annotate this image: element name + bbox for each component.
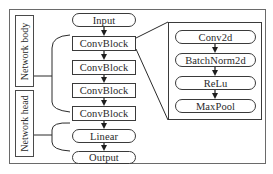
convblock-node-4: ConvBlock — [72, 106, 136, 121]
convblock-node-3-label: ConvBlock — [80, 85, 129, 96]
input-node: Input — [72, 13, 136, 27]
relu-node-label: ReLu — [204, 78, 228, 89]
relu-node: ReLu — [175, 76, 256, 90]
output-node: Output — [72, 151, 136, 164]
output-node-label: Output — [89, 152, 119, 163]
conv2d-node-label: Conv2d — [199, 32, 233, 43]
convblock-node-3: ConvBlock — [72, 83, 136, 98]
batchnorm2d-node: BatchNorm2d — [175, 53, 256, 67]
convblock-node-4-label: ConvBlock — [80, 108, 129, 119]
network-body-label-box: Network body — [15, 15, 34, 87]
conv2d-node: Conv2d — [175, 30, 256, 44]
maxpool-node: MaxPool — [175, 99, 256, 113]
convblock-node-1-label: ConvBlock — [80, 38, 129, 49]
batchnorm2d-node-label: BatchNorm2d — [185, 55, 246, 66]
convblock-node-1: ConvBlock — [72, 36, 136, 51]
convblock-node-2-label: ConvBlock — [80, 62, 129, 73]
network-body-label: Network body — [19, 22, 30, 80]
network-head-label: Network head — [19, 95, 30, 151]
input-node-label: Input — [93, 15, 116, 26]
convblock-node-2: ConvBlock — [72, 60, 136, 75]
maxpool-node-label: MaxPool — [196, 101, 235, 112]
network-head-label-box: Network head — [15, 90, 34, 157]
linear-node: Linear — [72, 129, 136, 143]
linear-node-label: Linear — [90, 131, 118, 142]
